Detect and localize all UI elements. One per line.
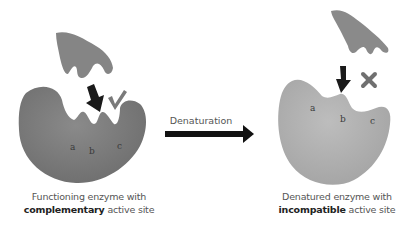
right-caption-line2: incompatible active site xyxy=(272,203,402,216)
denaturation-arrow-shaft xyxy=(165,131,245,137)
site-label-b-right: b xyxy=(340,114,346,124)
left-caption-line1: Functioning enzyme with xyxy=(14,190,164,203)
right-caption: Denatured enzyme with incompatible activ… xyxy=(272,190,402,216)
substrate-left xyxy=(56,32,113,78)
substrate-right xyxy=(331,10,388,54)
binding-arrow-right-icon xyxy=(336,66,351,93)
site-label-a-left: a xyxy=(70,142,76,152)
left-caption-line2: complementary active site xyxy=(14,203,164,216)
left-caption-bold: complementary xyxy=(24,204,105,215)
right-caption-line1: Denatured enzyme with xyxy=(272,190,402,203)
binding-arrow-left-icon xyxy=(86,84,104,112)
site-label-c-right: c xyxy=(370,116,375,126)
right-caption-bold: incompatible xyxy=(279,204,346,215)
left-caption: Functioning enzyme with complementary ac… xyxy=(14,190,164,216)
left-caption-rest: active site xyxy=(105,204,155,215)
site-label-b-left: b xyxy=(89,146,95,156)
denaturation-arrow-head-icon xyxy=(243,125,254,143)
enzyme-right xyxy=(278,80,390,185)
site-label-a-right: a xyxy=(310,103,316,113)
cross-mark-icon xyxy=(363,74,375,86)
denaturation-label: Denaturation xyxy=(151,115,251,126)
site-label-c-left: c xyxy=(117,141,122,151)
enzyme-left xyxy=(19,87,146,183)
right-caption-rest: active site xyxy=(346,204,396,215)
